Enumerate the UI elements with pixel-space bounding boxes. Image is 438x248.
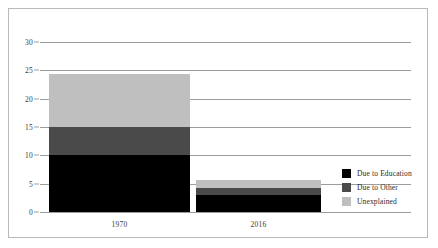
legend-label-due-to-other: Due to Other — [357, 183, 398, 192]
legend-label-unexplained: Unexplained — [357, 197, 397, 206]
bar-1970[interactable]: 1970 — [49, 74, 190, 212]
gridline-25: 25 — [40, 70, 411, 71]
legend-swatch-due-to-education — [342, 169, 351, 178]
y-tick-label-0: 0 — [29, 208, 33, 217]
chart-figure: 30 25 20 15 10 5 0 — [8, 8, 428, 238]
legend-swatch-due-to-other — [342, 183, 351, 192]
y-tick-dash-0 — [34, 212, 39, 213]
y-tick-dash-10 — [34, 155, 39, 156]
bar-1970-segment-due-to-education — [49, 155, 190, 212]
x-tick-label-1970: 1970 — [49, 220, 190, 229]
y-tick-label-10: 10 — [25, 151, 33, 160]
y-tick-label-20: 20 — [25, 94, 33, 103]
legend-item-due-to-education[interactable]: Due to Education — [342, 166, 434, 180]
y-tick-label-5: 5 — [29, 179, 33, 188]
gridline-30: 30 — [40, 42, 411, 43]
y-tick-dash-20 — [34, 98, 39, 99]
y-tick-label-25: 25 — [25, 66, 33, 75]
chart-legend: Due to Education Due to Other Unexplaine… — [342, 166, 434, 208]
legend-item-unexplained[interactable]: Unexplained — [342, 194, 434, 208]
legend-swatch-unexplained — [342, 197, 351, 206]
y-tick-dash-30 — [34, 42, 39, 43]
y-tick-dash-5 — [34, 183, 39, 184]
y-tick-dash-25 — [34, 70, 39, 71]
legend-label-due-to-education: Due to Education — [357, 169, 412, 178]
bar-2016-segment-due-to-education — [196, 195, 321, 212]
bar-1970-segment-unexplained — [49, 74, 190, 127]
bar-1970-segment-due-to-other — [49, 127, 190, 155]
bar-2016-segment-unexplained — [196, 180, 321, 188]
x-tick-label-2016: 2016 — [196, 220, 321, 229]
y-tick-label-30: 30 — [25, 38, 33, 47]
legend-item-due-to-other[interactable]: Due to Other — [342, 180, 434, 194]
bar-2016-segment-due-to-other — [196, 188, 321, 195]
y-tick-label-15: 15 — [25, 123, 33, 132]
bar-2016[interactable]: 2016 — [196, 180, 321, 212]
y-tick-dash-15 — [34, 127, 39, 128]
x-axis-line: 0 — [40, 212, 411, 213]
